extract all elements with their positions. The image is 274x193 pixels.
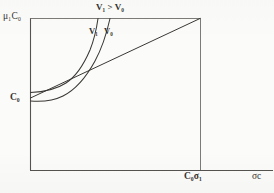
series-curve-V1 [31, 19, 99, 93]
x-axis-title: σc [252, 172, 261, 182]
series-curve-V0 [31, 19, 111, 102]
reference-lines [30, 18, 201, 170]
y-axis-top-tick-label: μ₁C₀ [3, 12, 21, 22]
data-curves [31, 19, 201, 102]
curve-label-v1: V₁ [89, 27, 98, 36]
curve-label-v0: V₀ [104, 27, 113, 36]
series-straight-line [31, 19, 201, 99]
plot-graphic [0, 0, 274, 193]
inequality-annotation: V₁ > V₀ [96, 3, 124, 12]
x-axis-inner-tick-label: C₀σ₁ [184, 172, 202, 182]
figure-canvas: μ₁C₀ C₀ V₁ > V₀ V₁ V₀ C₀σ₁ σc [0, 0, 274, 193]
y-axis-lower-tick-label: C₀ [10, 93, 20, 103]
